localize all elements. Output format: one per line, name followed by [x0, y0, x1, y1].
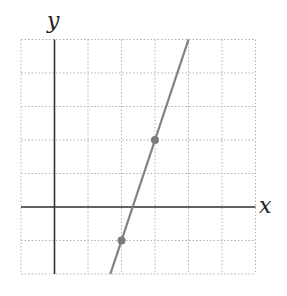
axes: [21, 40, 256, 275]
data-point: [151, 136, 159, 144]
coordinate-plane: x y: [0, 0, 287, 296]
x-axis-label: x: [259, 193, 272, 218]
data-point: [118, 237, 126, 245]
grid: [21, 40, 256, 275]
y-axis-label: y: [46, 8, 60, 33]
